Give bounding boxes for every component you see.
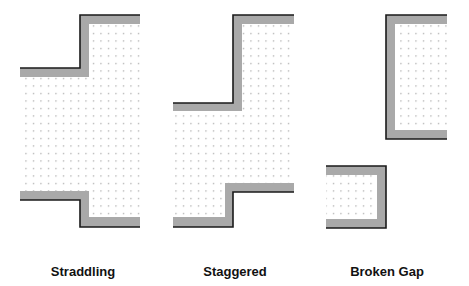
broken-gap-lower-dotted-fill (326, 175, 377, 219)
broken-gap-label: Broken Gap (350, 264, 424, 279)
wall-joint-diagram (0, 0, 469, 286)
broken-gap-figure (326, 15, 447, 228)
staggered-label: Staggered (203, 264, 267, 279)
straddling-figure (20, 15, 140, 227)
straddling-label: Straddling (51, 264, 115, 279)
staggered-figure (173, 15, 294, 227)
broken-gap-upper-dotted-fill (395, 24, 447, 130)
